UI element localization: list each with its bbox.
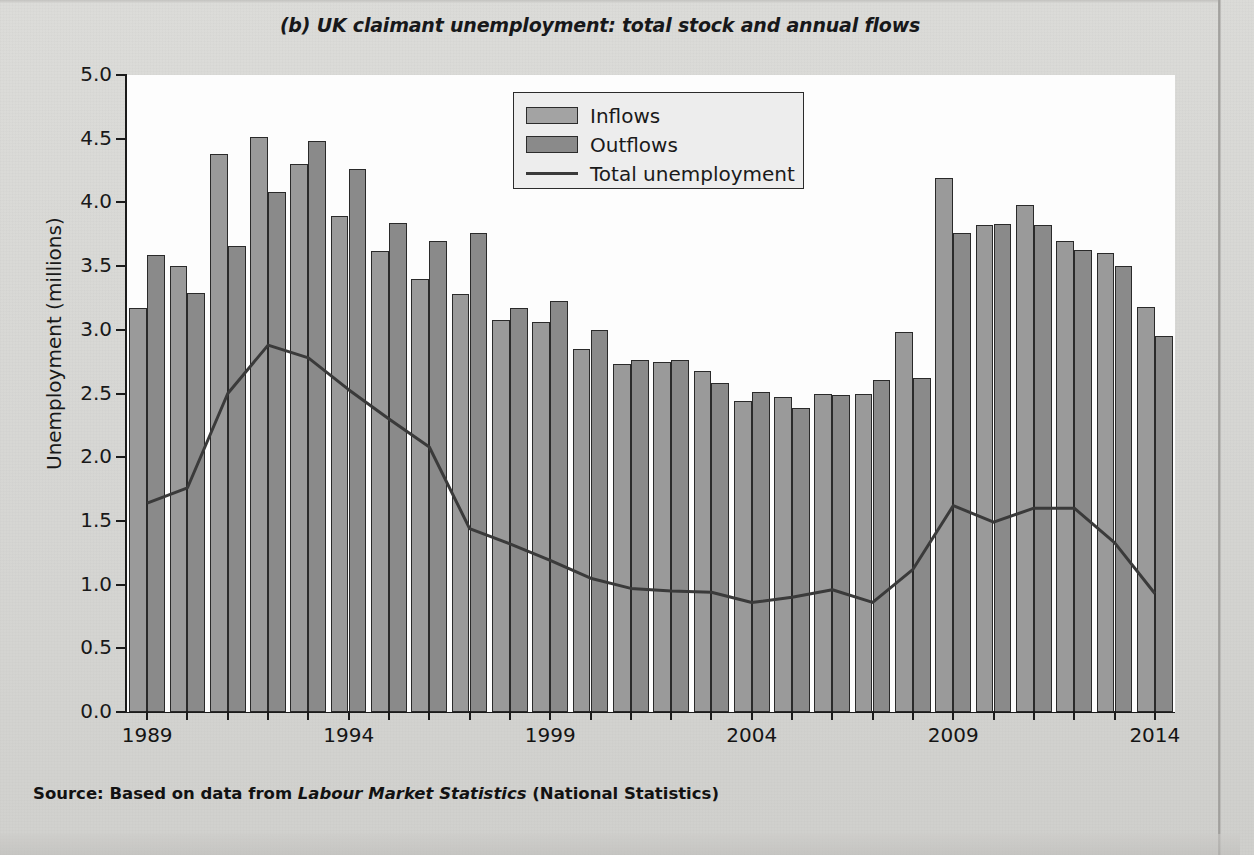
x-tick-mark: [428, 711, 430, 720]
bar-inflow-2001: [613, 364, 631, 712]
bar-outflow-1999: [550, 301, 568, 713]
y-tick-label: 0.0: [58, 699, 112, 723]
bar-outflow-2004: [752, 392, 770, 712]
bar-outflow-2010: [994, 224, 1012, 712]
bar-inflow-1998: [492, 320, 510, 712]
y-axis-title: Unemployment (millions): [42, 217, 66, 470]
chart-legend: Inflows Outflows Total unemployment: [513, 92, 804, 189]
y-tick-label: 4.5: [58, 126, 112, 150]
bar-inflow-2008: [895, 332, 913, 712]
x-tick-label: 1994: [323, 723, 374, 747]
x-tick-mark: [307, 711, 309, 720]
x-tick-label: 1999: [525, 723, 576, 747]
bar-outflow-1995: [389, 223, 407, 712]
legend-line-marker-icon: [526, 172, 578, 175]
x-tick-mark: [186, 711, 188, 720]
source-prefix: Source: Based on data from: [33, 784, 298, 803]
x-tick-mark: [751, 711, 753, 720]
y-tick-label: 5.0: [58, 62, 112, 86]
y-tick-mark: [116, 265, 126, 267]
chart-title: (b) UK claimant unemployment: total stoc…: [0, 14, 1200, 36]
x-tick-mark: [831, 711, 833, 720]
y-tick-mark: [116, 711, 126, 713]
bar-outflow-2009: [953, 233, 971, 712]
x-tick-mark: [227, 711, 229, 720]
bar-outflow-2014: [1155, 336, 1173, 712]
x-tick-mark: [590, 711, 592, 720]
x-tick-mark: [549, 711, 551, 720]
x-tick-mark: [912, 711, 914, 720]
x-tick-mark: [993, 711, 995, 720]
bar-inflow-2007: [855, 394, 873, 713]
bar-inflow-2014: [1137, 307, 1155, 712]
bar-inflow-1995: [371, 251, 389, 712]
bar-outflow-1996: [429, 241, 447, 712]
bar-outflow-2000: [591, 330, 609, 712]
bar-outflow-1997: [470, 233, 488, 712]
bar-inflow-1990: [170, 266, 188, 712]
y-tick-label: 3.5: [58, 253, 112, 277]
y-tick-mark: [116, 201, 126, 203]
y-tick-mark: [116, 647, 126, 649]
bar-inflow-1994: [331, 216, 349, 712]
x-tick-mark: [1033, 711, 1035, 720]
y-tick-mark: [116, 74, 126, 76]
source-suffix: (National Statistics): [527, 784, 719, 803]
x-tick-label: 2014: [1129, 723, 1180, 747]
y-tick-label: 1.5: [58, 508, 112, 532]
x-tick-mark: [509, 711, 511, 720]
y-tick-label: 1.0: [58, 572, 112, 596]
bar-outflow-1994: [349, 169, 367, 712]
page-edge-bottom: [0, 834, 1240, 855]
x-tick-mark: [710, 711, 712, 720]
x-tick-mark: [952, 711, 954, 720]
bar-inflow-2006: [814, 394, 832, 713]
source-note: Source: Based on data from Labour Market…: [33, 784, 719, 803]
legend-label-total-unemployment: Total unemployment: [590, 162, 795, 186]
bar-inflow-1996: [411, 279, 429, 712]
bar-inflow-1999: [532, 322, 550, 712]
bar-inflow-2003: [694, 371, 712, 712]
bar-outflow-2007: [873, 380, 891, 713]
x-tick-label: 2004: [726, 723, 777, 747]
x-tick-label: 1989: [122, 723, 173, 747]
x-tick-mark: [267, 711, 269, 720]
x-tick-label: 2009: [928, 723, 979, 747]
legend-swatch-inflows-icon: [526, 107, 578, 124]
y-tick-mark: [116, 329, 126, 331]
legend-item-inflows: Inflows: [526, 101, 803, 130]
x-tick-mark: [670, 711, 672, 720]
bar-outflow-1992: [268, 192, 286, 712]
bar-outflow-1998: [510, 308, 528, 712]
bar-inflow-1993: [290, 164, 308, 712]
y-tick-label: 2.5: [58, 381, 112, 405]
page-edge-top: [0, 0, 1218, 3]
bar-inflow-2009: [935, 178, 953, 712]
bar-outflow-1990: [187, 293, 205, 712]
x-tick-mark: [630, 711, 632, 720]
bar-inflow-2013: [1097, 253, 1115, 712]
legend-label-inflows: Inflows: [590, 104, 660, 128]
y-tick-label: 3.0: [58, 317, 112, 341]
bar-inflow-2012: [1056, 241, 1074, 712]
legend-item-total-unemployment: Total unemployment: [526, 159, 803, 188]
legend-swatch-outflows-icon: [526, 136, 578, 153]
bar-outflow-2006: [832, 395, 850, 712]
y-tick-mark: [116, 584, 126, 586]
bar-outflow-1991: [228, 246, 246, 712]
y-tick-label: 0.5: [58, 635, 112, 659]
legend-item-outflows: Outflows: [526, 130, 803, 159]
bar-outflow-1993: [308, 141, 326, 712]
x-tick-mark: [469, 711, 471, 720]
bar-outflow-2005: [792, 408, 810, 712]
y-tick-mark: [116, 520, 126, 522]
source-publication: Labour Market Statistics: [298, 784, 527, 803]
legend-label-outflows: Outflows: [590, 133, 678, 157]
bar-inflow-1997: [452, 294, 470, 712]
bar-inflow-1992: [250, 137, 268, 712]
x-tick-mark: [388, 711, 390, 720]
bar-outflow-2008: [913, 378, 931, 712]
x-tick-mark: [1073, 711, 1075, 720]
bar-inflow-2004: [734, 401, 752, 712]
x-tick-mark: [791, 711, 793, 720]
